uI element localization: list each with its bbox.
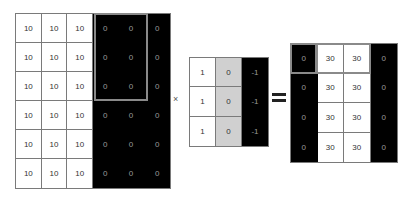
- matrix-cell: 10: [42, 101, 68, 130]
- matrix-cell: 10: [16, 130, 42, 159]
- matrix-cell: 10: [42, 72, 68, 101]
- matrix-cell: 10: [67, 72, 93, 101]
- matrix-cell: 0: [93, 43, 119, 72]
- matrix-cell: 10: [42, 14, 68, 43]
- matrix-cell: 30: [344, 133, 371, 163]
- matrix-cell: 0: [93, 159, 119, 188]
- matrix-cell: 0: [371, 133, 398, 163]
- matrix-cell: 0: [144, 43, 170, 72]
- matrix-cell: 0: [291, 103, 318, 133]
- matrix-cell: 10: [67, 101, 93, 130]
- matrix-cell: 10: [16, 159, 42, 188]
- matrix-cell: 10: [16, 43, 42, 72]
- equals-operator: [272, 93, 286, 105]
- matrix-cell: 10: [67, 43, 93, 72]
- matrix-cell: -1: [242, 117, 268, 146]
- matrix-cell: 1: [190, 117, 216, 146]
- matrix-cell: 0: [93, 101, 119, 130]
- multiply-operator: ×: [173, 94, 178, 104]
- matrix-cell: 0: [93, 72, 119, 101]
- matrix-cell: 30: [344, 44, 371, 74]
- matrix-cell: 0: [93, 130, 119, 159]
- matrix-cell: 10: [16, 101, 42, 130]
- matrix-cell: 0: [216, 87, 242, 116]
- matrix-cell: 1: [190, 58, 216, 87]
- matrix-cell: 10: [67, 14, 93, 43]
- input-matrix: 1010100001010100001010100001010100001010…: [15, 13, 171, 189]
- matrix-cell: 0: [144, 130, 170, 159]
- matrix-cell: 0: [291, 44, 318, 74]
- matrix-cell: 0: [371, 44, 398, 74]
- matrix-cell: 0: [371, 103, 398, 133]
- matrix-cell: 0: [144, 101, 170, 130]
- output-matrix: 030300030300030300030300: [290, 43, 398, 163]
- matrix-cell: 0: [291, 74, 318, 104]
- matrix-cell: 0: [144, 159, 170, 188]
- matrix-cell: 10: [16, 14, 42, 43]
- matrix-cell: 0: [291, 133, 318, 163]
- matrix-cell: 10: [42, 159, 68, 188]
- matrix-cell: 0: [216, 58, 242, 87]
- matrix-cell: 0: [119, 101, 145, 130]
- matrix-cell: 10: [16, 72, 42, 101]
- matrix-cell: 10: [67, 159, 93, 188]
- matrix-cell: 30: [318, 133, 345, 163]
- matrix-cell: 0: [144, 14, 170, 43]
- matrix-cell: 0: [93, 14, 119, 43]
- kernel-matrix: 10-110-110-1: [189, 57, 269, 147]
- matrix-cell: 0: [119, 14, 145, 43]
- matrix-cell: 30: [318, 44, 345, 74]
- matrix-cell: 10: [42, 43, 68, 72]
- matrix-cell: 0: [371, 74, 398, 104]
- matrix-cell: 0: [144, 72, 170, 101]
- matrix-cell: 0: [216, 117, 242, 146]
- matrix-cell: 10: [42, 130, 68, 159]
- matrix-cell: 30: [344, 103, 371, 133]
- matrix-cell: 30: [344, 74, 371, 104]
- matrix-cell: 30: [318, 74, 345, 104]
- matrix-cell: 0: [119, 72, 145, 101]
- matrix-cell: 0: [119, 130, 145, 159]
- matrix-cell: 0: [119, 159, 145, 188]
- matrix-cell: 1: [190, 87, 216, 116]
- matrix-cell: 0: [119, 43, 145, 72]
- matrix-cell: -1: [242, 58, 268, 87]
- matrix-cell: -1: [242, 87, 268, 116]
- matrix-cell: 10: [67, 130, 93, 159]
- matrix-cell: 30: [318, 103, 345, 133]
